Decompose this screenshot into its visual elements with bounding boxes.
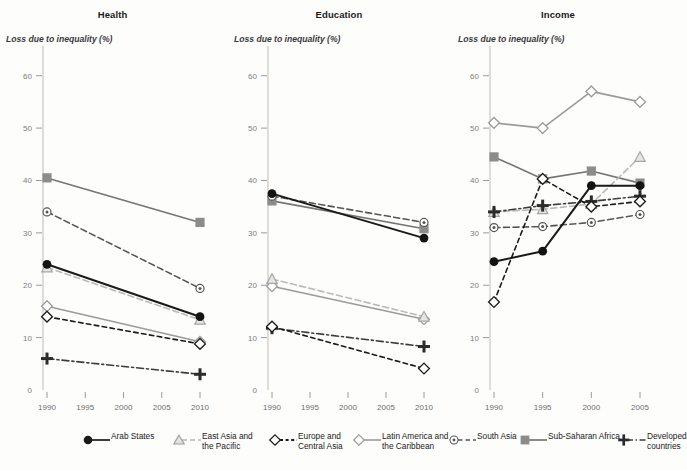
svg-text:40: 40 [470,176,479,185]
svg-text:10: 10 [470,334,479,343]
svg-text:10: 10 [248,334,257,343]
svg-text:2005: 2005 [153,403,171,412]
svg-text:2000: 2000 [339,403,357,412]
svg-text:40: 40 [23,176,32,185]
plot-area-education: 010203040506019901995200020052010 [228,0,450,418]
legend-label-arab-states: Arab States [111,432,154,442]
svg-text:1995: 1995 [301,403,319,412]
svg-text:20: 20 [248,281,257,290]
legend-item-arab-states[interactable]: Arab States [81,432,154,447]
legend-item-developed-countries[interactable]: Developed countries [617,432,687,451]
legend-label-europe-and-central-asia: Europe and Central Asia [298,432,343,451]
legend-symbol-europe-and-central-asia [268,433,298,447]
svg-text:30: 30 [248,229,257,238]
svg-text:2000: 2000 [115,403,133,412]
svg-text:1990: 1990 [263,403,281,412]
svg-text:10: 10 [23,334,32,343]
legend-item-europe-and-central-asia[interactable]: Europe and Central Asia [268,432,343,451]
svg-text:2005: 2005 [631,403,649,412]
svg-text:0: 0 [475,386,480,395]
panel-health: Health Loss due to inequality (%) 010203… [0,0,225,418]
legend-item-south-asia[interactable]: South Asia [447,432,517,447]
legend-symbol-latin-america-and-the-caribbean [352,433,382,447]
legend-label-latin-america-and-the-caribbean: Latin America and the Caribbean [382,432,448,451]
legend-label-sub-saharan-africa: Sub-Saharan Africa [548,432,620,442]
legend-symbol-south-asia [447,433,477,447]
legend-symbol-developed-countries [617,433,647,447]
svg-text:2010: 2010 [415,403,433,412]
legend-label-developed-countries: Developed countries [647,432,687,451]
svg-text:20: 20 [23,281,32,290]
panel-income: Income Loss due to inequality (%) 010203… [452,0,664,418]
plot-area-income: 01020304050601990199520002005 [452,0,664,418]
svg-text:0: 0 [28,386,33,395]
plot-svg-income: 01020304050601990199520002005 [452,0,664,418]
svg-text:2005: 2005 [377,403,395,412]
panel-education: Education Loss due to inequality (%) 010… [228,0,450,418]
svg-text:60: 60 [23,72,32,81]
svg-text:50: 50 [248,124,257,133]
plot-area-health: 010203040506019901995200020052010 [0,0,225,418]
svg-text:0: 0 [253,386,258,395]
legend-item-latin-america-and-the-caribbean[interactable]: Latin America and the Caribbean [352,432,448,451]
plot-svg-education: 010203040506019901995200020052010 [228,0,450,418]
svg-text:2010: 2010 [191,403,209,412]
legend-symbol-sub-saharan-africa [518,433,548,447]
legend-symbol-arab-states [81,433,111,447]
legend-label-south-asia: South Asia [477,432,517,442]
legend-symbol-east-asia-and-the-pacific [172,433,202,447]
svg-text:2000: 2000 [582,403,600,412]
legend-label-east-asia-and-the-pacific: East Asia and the Pacific [202,432,253,451]
chart-legend: Arab States East Asia and the Pacific Eu… [0,424,664,470]
plot-svg-health: 010203040506019901995200020052010 [0,0,225,418]
svg-text:1995: 1995 [76,403,94,412]
svg-text:60: 60 [470,72,479,81]
svg-text:20: 20 [470,281,479,290]
svg-text:60: 60 [248,72,257,81]
svg-text:1995: 1995 [534,403,552,412]
svg-text:40: 40 [248,176,257,185]
svg-text:50: 50 [23,124,32,133]
svg-text:1990: 1990 [38,403,56,412]
svg-text:30: 30 [23,229,32,238]
legend-item-sub-saharan-africa[interactable]: Sub-Saharan Africa [518,432,620,447]
svg-text:50: 50 [470,124,479,133]
legend-item-east-asia-and-the-pacific[interactable]: East Asia and the Pacific [172,432,253,451]
svg-text:1990: 1990 [485,403,503,412]
svg-text:30: 30 [470,229,479,238]
